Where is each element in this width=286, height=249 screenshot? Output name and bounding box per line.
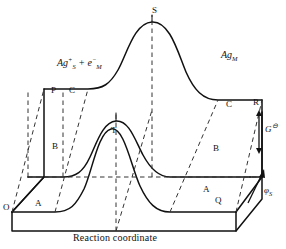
reaction-coordinate-caption: Reaction coordinate	[73, 233, 157, 243]
point-label-S: S	[152, 6, 157, 15]
dashed-construction-group	[12, 15, 262, 231]
point-label-A-right: A	[203, 185, 210, 194]
species-right-element: Ag	[221, 49, 232, 60]
species-label-reactant: Ag+S + e−M	[57, 57, 102, 71]
point-label-B-right: B	[213, 144, 219, 153]
species-left-charge: +	[68, 56, 72, 63]
point-label-O: O	[3, 203, 10, 212]
species-plus-sign: +	[78, 57, 85, 68]
species-right-phase: M	[232, 55, 237, 62]
point-label-P: P	[51, 86, 56, 95]
g-superscript: ⊖	[272, 122, 278, 130]
species-left-phase: S	[73, 63, 76, 70]
point-label-C-right: C	[226, 100, 232, 109]
dashed-depth-A-to-C-right	[170, 100, 218, 212]
diagram-canvas	[0, 0, 286, 249]
point-label-B-left: B	[52, 142, 58, 151]
species-label-product: AgM	[221, 50, 238, 63]
depth-axis-label: φS	[264, 186, 272, 197]
solid-outline-group	[12, 15, 262, 231]
point-label-T: T	[111, 126, 117, 135]
species-left-element: Ag	[57, 57, 68, 68]
energy-surface-figure: Ag+S + e−M AgM G⊖ φS Reaction coordinate…	[0, 0, 286, 249]
dashed-depth-A-to-C	[55, 89, 88, 212]
point-label-Q: Q	[215, 196, 222, 205]
species-electron-charge: −	[92, 56, 96, 63]
species-electron-phase: M	[96, 63, 101, 70]
g-axis-arrowhead-down	[256, 148, 262, 154]
point-label-A-left: A	[35, 199, 42, 208]
box-base-front-edges	[12, 112, 262, 231]
point-label-C-left: C	[69, 86, 75, 95]
point-label-R: R	[253, 98, 259, 107]
g-axis-arrowhead-up	[256, 110, 262, 116]
front-energy-profile-curve	[12, 129, 236, 212]
vertical-axis-label: G⊖	[265, 123, 278, 134]
phi-subscript: S	[269, 190, 272, 197]
